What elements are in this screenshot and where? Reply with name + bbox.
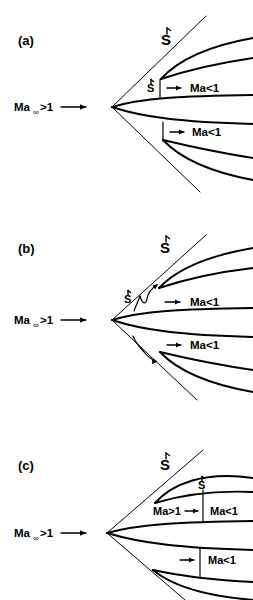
panel-c-label: (c) bbox=[18, 458, 34, 473]
panel-a-body-upper-pressure bbox=[161, 58, 253, 79]
panel-c-region-lower-label: Ma<1 bbox=[208, 554, 236, 566]
panel-b-body-center-lower bbox=[112, 320, 253, 337]
panel-b-body-lower-pressure bbox=[160, 352, 253, 370]
panel-b-inflow-relation: >1 bbox=[40, 314, 54, 326]
panel-a-body-center-lower bbox=[112, 107, 253, 124]
panel-b-inner-shock-upper-foot bbox=[134, 296, 140, 311]
panel-c-outer-shock-lower bbox=[107, 533, 185, 600]
panel-a-body-upper-suction bbox=[161, 38, 253, 79]
panel-b-region-lower-label: Ma<1 bbox=[190, 339, 220, 351]
panel-b-flow-arrow-upper bbox=[165, 300, 180, 305]
panel-c-outer-shock-upper bbox=[107, 450, 203, 533]
panel-a-inflow-subscript: ∞ bbox=[33, 108, 39, 117]
panel-c-region-upper-left-label: Ma>1 bbox=[153, 505, 181, 517]
panel-a-inner-shock-label: S bbox=[147, 80, 154, 95]
panel-b-outer-shock-label: S bbox=[160, 236, 170, 256]
panel-b-inner-shock-label: S bbox=[124, 291, 131, 306]
panel-b-inflow-label: Ma ∞ >1 bbox=[14, 314, 54, 330]
panel-a-region-upper-label: Ma<1 bbox=[190, 82, 220, 94]
panel-b-inner-shock-lower bbox=[133, 336, 156, 361]
panel-c-inflow-relation: >1 bbox=[40, 527, 54, 539]
panel-a-body-lower-pressure bbox=[163, 140, 253, 158]
panel-c-inflow-arrow bbox=[61, 530, 86, 535]
panel-c-inflow-label: Ma ∞ >1 bbox=[14, 527, 54, 543]
panel-a-outer-shock-label: S bbox=[161, 28, 171, 48]
shock-structure-figure: (a) Ma ∞ >1 S bbox=[0, 0, 253, 600]
panel-c-inner-shock-label: S bbox=[198, 477, 205, 492]
panel-b-outer-shock-s: S bbox=[160, 239, 170, 256]
panel-c-outer-shock-s: S bbox=[160, 456, 170, 473]
panel-a-region-lower-label: Ma<1 bbox=[192, 126, 222, 138]
panel-a-flow-arrow-upper bbox=[167, 86, 181, 91]
panel-b-body-upper-suction bbox=[159, 248, 253, 288]
panel-c: (c) Ma ∞ >1 S S bbox=[14, 450, 253, 600]
panel-c-body-upper-pressure bbox=[155, 492, 253, 503]
panel-b-inflow-arrow bbox=[61, 317, 86, 322]
panel-b-body-upper-pressure bbox=[159, 268, 253, 288]
panel-b-body-center-upper bbox=[112, 308, 253, 320]
panel-c-body-center-upper bbox=[107, 521, 253, 533]
panel-c-region-upper-right-label: Ma<1 bbox=[210, 505, 238, 517]
panel-b: (b) Ma ∞ >1 S S bbox=[14, 235, 253, 400]
panel-b-flow-arrow-lower bbox=[167, 343, 181, 348]
panel-a: (a) Ma ∞ >1 S bbox=[14, 16, 253, 192]
panel-c-inflow-subscript: ∞ bbox=[33, 534, 39, 543]
panel-a-body-center-upper bbox=[112, 95, 253, 107]
panel-c-inflow-ma: Ma bbox=[14, 527, 31, 539]
panel-a-flow-arrow-lower bbox=[170, 130, 184, 135]
panel-a-inflow-relation: >1 bbox=[40, 101, 54, 113]
panel-c-flow-arrow-upper bbox=[185, 509, 198, 514]
panel-a-outer-shock-s: S bbox=[161, 31, 171, 48]
panel-a-inflow-label: Ma ∞ >1 bbox=[14, 101, 54, 117]
panel-b-region-upper-label: Ma<1 bbox=[190, 296, 220, 308]
panel-b-label: (b) bbox=[18, 241, 35, 256]
panel-a-body-lower-suction bbox=[163, 140, 253, 180]
panel-c-outer-shock-label: S bbox=[160, 453, 170, 473]
panel-a-inflow-arrow bbox=[61, 104, 86, 109]
panel-a-inflow-ma: Ma bbox=[14, 101, 31, 113]
panel-c-body-center-lower bbox=[107, 533, 253, 550]
panel-b-body-lower-suction bbox=[160, 352, 253, 392]
panel-a-label: (a) bbox=[18, 33, 34, 48]
panel-c-flow-arrow-lower bbox=[180, 558, 194, 563]
panel-b-inflow-subscript: ∞ bbox=[33, 321, 39, 330]
panel-b-inflow-ma: Ma bbox=[14, 314, 31, 326]
